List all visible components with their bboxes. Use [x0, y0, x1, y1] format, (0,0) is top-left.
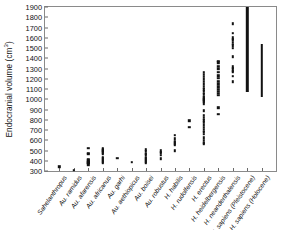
data-point [217, 92, 219, 94]
data-point [58, 166, 60, 168]
data-point [231, 41, 233, 43]
x-axis-tick-mark [132, 168, 133, 171]
y-axis-tick-mark [45, 7, 48, 8]
y-axis-tick-label: 1200 [26, 74, 45, 83]
x-axis-tick-mark [233, 168, 234, 171]
y-axis-tick-label: 400 [30, 156, 45, 165]
x-axis-tick-mark [161, 168, 162, 171]
data-point [217, 88, 219, 90]
data-point [203, 118, 205, 120]
y-axis-tick-label: 700 [30, 126, 45, 135]
x-axis-tick-mark [218, 168, 219, 171]
data-point [203, 139, 205, 141]
y-axis-tick-mark [45, 78, 48, 79]
data-point [188, 119, 190, 121]
data-point [203, 116, 205, 118]
data-point [217, 65, 219, 67]
endocranial-volume-chart: Endocranial volume (cm3) 300400500600700… [0, 0, 283, 230]
y-axis-tick-mark [45, 37, 48, 38]
data-point [231, 66, 233, 68]
y-axis-tick-mark [45, 99, 48, 100]
y-axis-tick-mark [45, 27, 48, 28]
data-point [231, 23, 233, 25]
plot-inner: 3004005006007008009001000110012001300140… [45, 7, 276, 171]
y-axis-tick-label: 1300 [26, 64, 45, 73]
plot-area: 3004005006007008009001000110012001300140… [44, 6, 277, 172]
data-point [217, 94, 219, 96]
data-point [87, 152, 89, 154]
data-point [174, 150, 176, 152]
data-point [231, 47, 233, 49]
y-axis-tick-mark [45, 109, 48, 110]
data-point [231, 55, 233, 57]
y-axis-tick-label: 600 [30, 136, 45, 145]
y-axis-tick-mark [45, 17, 48, 18]
y-axis-tick-mark [45, 119, 48, 120]
y-axis-title-wrap: Endocranial volume (cm3) [0, 0, 16, 178]
data-point [87, 158, 89, 160]
data-point [231, 43, 233, 45]
x-axis-tick-mark [189, 168, 190, 171]
data-point [203, 128, 205, 130]
x-axis-tick-mark [175, 168, 176, 171]
y-axis-tick-label: 1500 [26, 44, 45, 53]
y-axis-tick-mark [45, 140, 48, 141]
data-point [231, 80, 233, 82]
data-point [203, 71, 205, 73]
data-point [87, 147, 89, 149]
y-axis-tick-mark [45, 150, 48, 151]
y-axis-tick-mark [45, 130, 48, 131]
y-axis-tick-mark [45, 48, 48, 49]
data-point [217, 71, 219, 73]
x-axis-tick-mark [262, 168, 263, 171]
data-point [217, 90, 219, 92]
y-axis-tick-mark [45, 68, 48, 69]
data-point [203, 124, 205, 126]
data-point [130, 161, 132, 163]
y-axis-tick-label: 500 [30, 146, 45, 155]
y-axis-tick-label: 1700 [26, 23, 45, 32]
x-axis-tick-mark [204, 168, 205, 171]
data-point [217, 107, 219, 109]
data-point [217, 74, 219, 76]
data-point [217, 60, 219, 62]
data-point [102, 148, 104, 150]
y-axis-tick-label: 1600 [26, 33, 45, 42]
data-point [174, 134, 176, 136]
y-axis-tick-mark [45, 58, 48, 59]
data-point [217, 77, 219, 79]
y-axis-tick-label: 900 [30, 105, 45, 114]
data-point [102, 156, 104, 158]
y-axis-tick-mark [45, 89, 48, 90]
range-bar [246, 7, 248, 92]
data-point [217, 86, 219, 88]
data-point [203, 110, 205, 112]
x-axis-tick-mark [146, 168, 147, 171]
data-point [203, 73, 205, 75]
x-axis-tick-mark [247, 168, 248, 171]
range-bar [260, 44, 262, 97]
x-axis-tick-mark [117, 168, 118, 171]
data-point [203, 141, 205, 143]
data-point [159, 157, 161, 159]
data-point [203, 87, 205, 89]
data-point [188, 126, 190, 128]
data-point [231, 32, 233, 34]
y-axis-tick-label: 1100 [26, 85, 45, 94]
y-axis-tick-mark [45, 160, 48, 161]
data-point [203, 77, 205, 79]
x-axis-tick-mark [103, 168, 104, 171]
y-axis-title-base: Endocranial volume (cm [4, 47, 13, 137]
data-point [145, 149, 147, 151]
data-point [159, 150, 161, 152]
data-point [203, 102, 205, 104]
data-point [203, 83, 205, 85]
y-axis-tick-label: 800 [30, 115, 45, 124]
y-axis-title-tail: ) [4, 41, 13, 44]
data-point [203, 80, 205, 82]
data-point [203, 136, 205, 138]
data-point [231, 75, 233, 77]
data-point [203, 130, 205, 132]
data-point [217, 83, 219, 85]
y-axis-tick-label: 1900 [26, 3, 45, 12]
